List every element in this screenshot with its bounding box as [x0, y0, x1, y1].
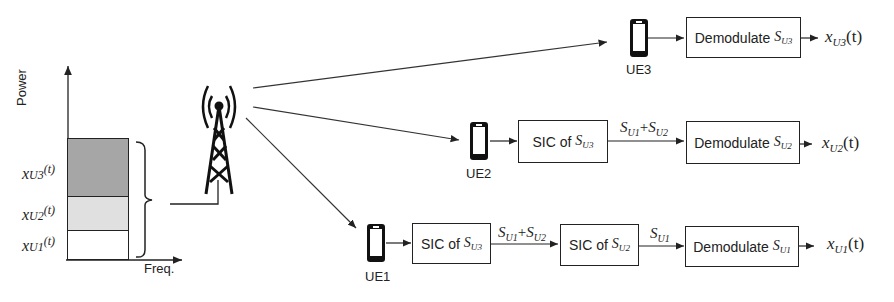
ue1-label: UE1 — [365, 269, 390, 284]
signal-su1-su2-ue2: SU1+SU2 — [620, 119, 668, 138]
demodulate-su1-box-ue1: Demodulate SU1 — [685, 226, 799, 267]
band-label-u3: xU3(t) — [22, 162, 55, 183]
ue2-label: UE2 — [466, 166, 491, 181]
signal-su1-su2-ue1: SU1+SU2 — [498, 224, 546, 243]
signal-su1-ue1: SU1 — [650, 225, 670, 244]
output-xu2: xU2(t) — [822, 133, 859, 154]
y-axis-label: Power — [14, 69, 29, 106]
sic-su3-box-ue1: SIC of SU3 — [412, 223, 491, 264]
band-label-u2: xU2(t) — [22, 203, 55, 224]
demodulate-su3-box-ue3: Demodulate SU3 — [686, 17, 801, 58]
band-label-u1: xU1(t) — [22, 234, 55, 255]
output-xu3: xU3(t) — [825, 27, 862, 48]
sic-su2-box-ue1: SIC of SU2 — [560, 224, 639, 266]
phone-icon-ue1 — [367, 224, 385, 262]
ue3-label: UE3 — [626, 62, 651, 77]
demodulate-su2-box-ue2: Demodulate SU2 — [686, 121, 800, 164]
band-u2 — [67, 196, 129, 232]
cell-tower-icon — [203, 86, 235, 194]
sic-su3-box-ue2: SIC of SU3 — [518, 120, 608, 163]
phone-icon-ue2 — [470, 122, 488, 160]
band-u3 — [67, 138, 129, 198]
phone-icon-ue3 — [630, 19, 648, 57]
x-axis-label: Freq. — [144, 261, 174, 276]
output-xu1: xU1(t) — [827, 234, 864, 255]
band-u1 — [67, 230, 129, 260]
